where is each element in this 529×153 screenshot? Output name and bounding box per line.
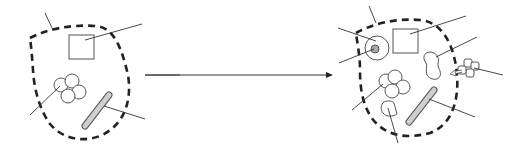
transition-arrow — [145, 72, 333, 78]
panel-before — [30, 13, 180, 139]
entry-arrow-head-icon — [450, 70, 456, 76]
arrow-head-icon — [326, 72, 333, 78]
rod-organelle — [409, 90, 434, 122]
cell-transition-diagram — [0, 0, 529, 153]
four-circle-cluster — [379, 70, 410, 98]
four-circle-cluster — [54, 74, 86, 103]
circle-with-nucleolus — [365, 36, 389, 60]
rod-organelle — [85, 95, 109, 126]
cup-organelle — [381, 101, 397, 116]
diagram-canvas — [0, 0, 529, 153]
panel-after — [338, 6, 503, 143]
leader-lines-after — [338, 6, 503, 143]
